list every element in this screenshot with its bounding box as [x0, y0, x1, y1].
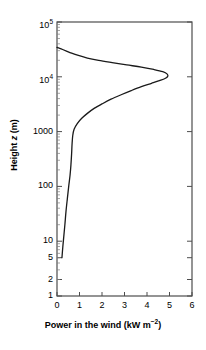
plot-area	[0, 0, 206, 350]
axes-frame	[57, 22, 192, 296]
chart-figure: Height z (m) Power in the wind (kW m−2) …	[0, 0, 206, 350]
data-curve	[57, 47, 168, 257]
axis-ticks	[57, 22, 192, 296]
